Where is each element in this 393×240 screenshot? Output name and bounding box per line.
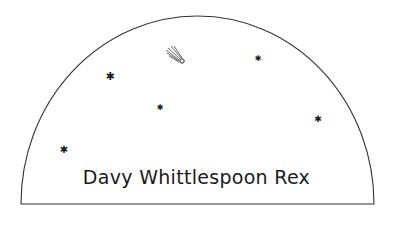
star-icon: ✱	[157, 104, 164, 112]
caption-title: Davy Whittlespoon Rex	[0, 166, 393, 188]
star-icon: ✱	[105, 71, 114, 82]
star-icon: ✱	[314, 115, 322, 124]
comet-icon	[166, 46, 184, 63]
star-icon: ✱	[255, 55, 262, 63]
star-icon: ✱	[60, 145, 68, 155]
